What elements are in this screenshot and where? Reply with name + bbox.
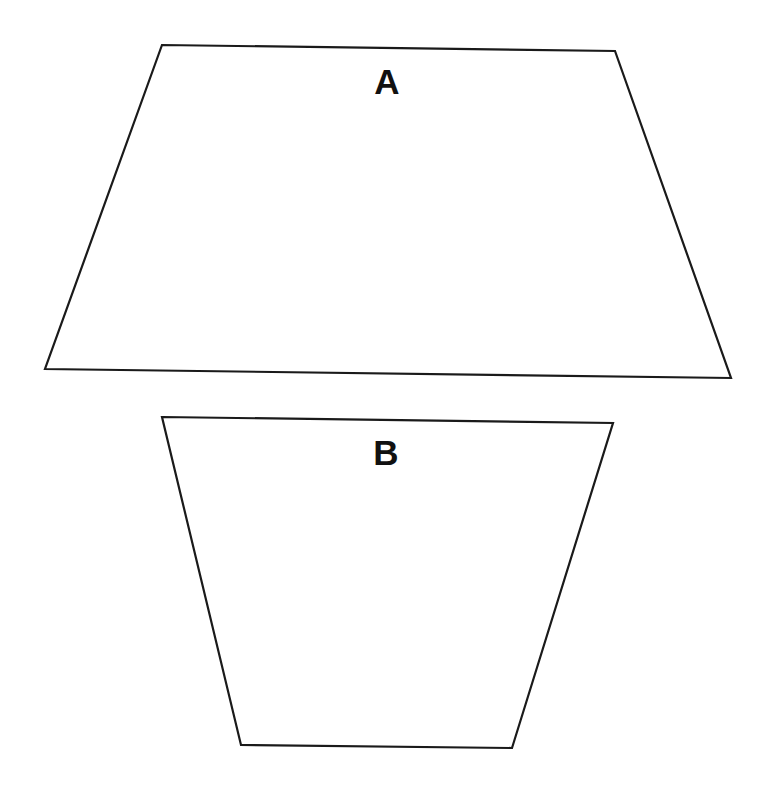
shape-b-group: B [162,417,613,748]
shape-a-group: A [45,45,731,378]
diagram-canvas: A B [0,0,779,792]
label-b: B [373,433,398,472]
label-a: A [374,62,399,101]
